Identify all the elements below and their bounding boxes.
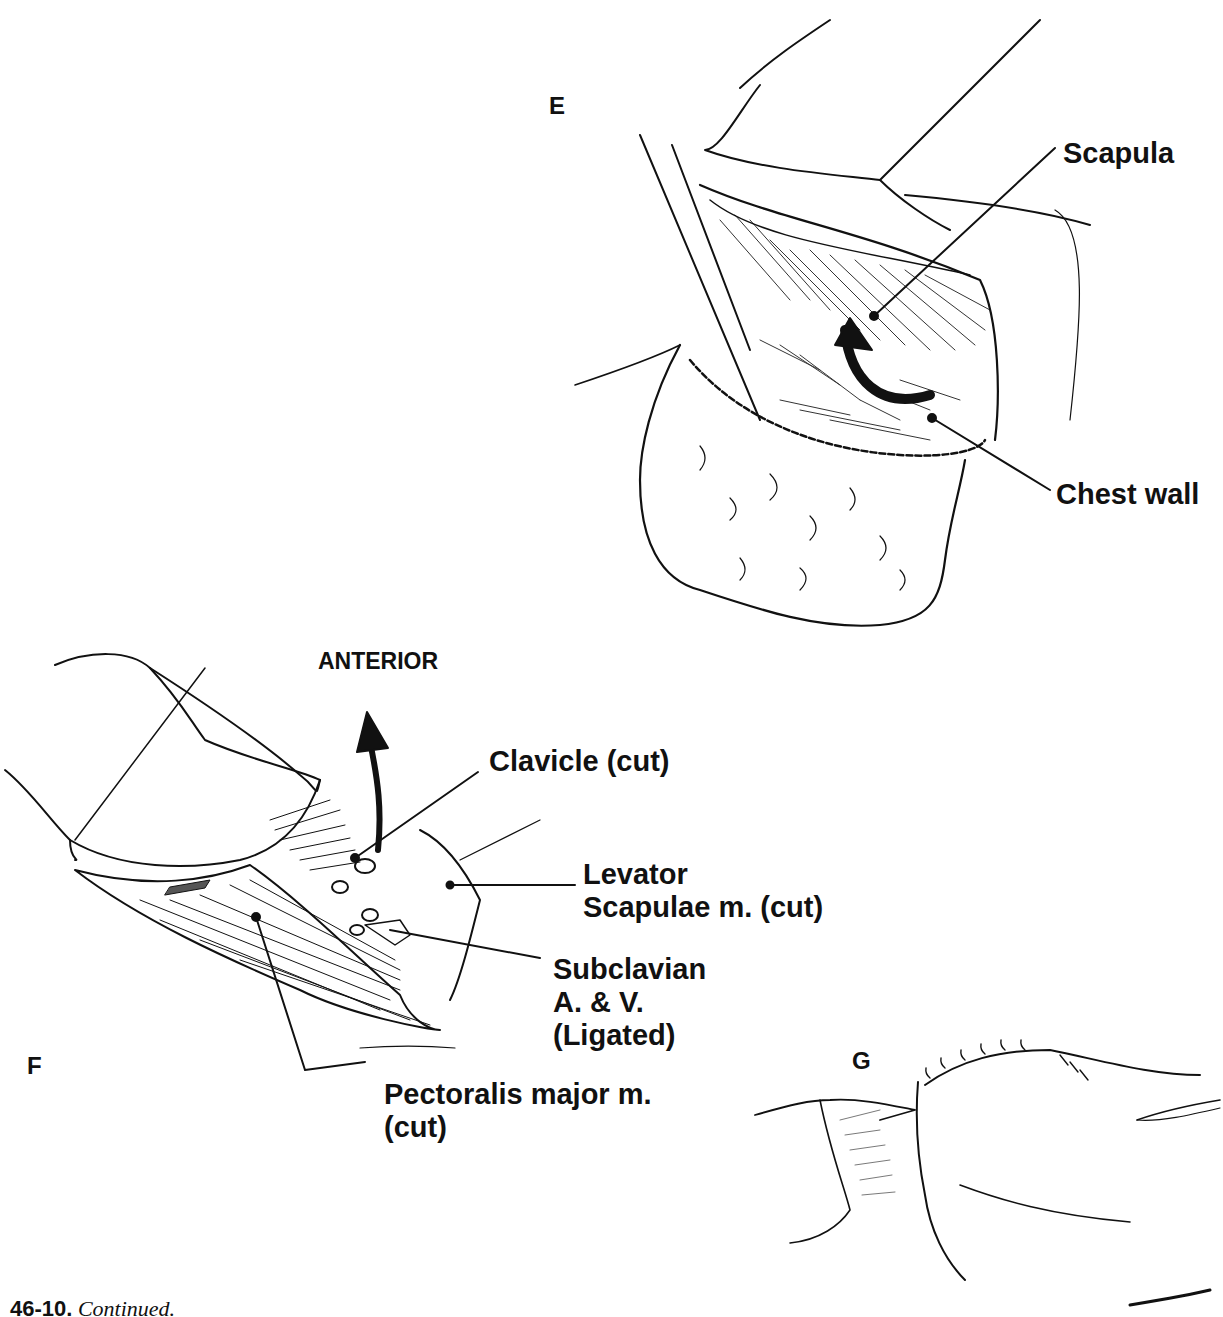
surgical-illustration [0, 0, 1223, 1317]
figure-number: 46-10. [10, 1296, 72, 1317]
figure-caption: 46-10. Continued. [10, 1296, 175, 1317]
panel-g-letter: G [852, 1047, 871, 1075]
label-scapulae-cut: Scapulae m. (cut) [583, 891, 823, 924]
label-chest-wall: Chest wall [1056, 478, 1199, 511]
label-ligated: (Ligated) [553, 1019, 675, 1052]
panel-f-letter: F [27, 1052, 42, 1080]
figure-caption-text: Continued. [78, 1296, 175, 1317]
panel-f-drawing [5, 654, 575, 1070]
label-a-and-v: A. & V. [553, 986, 644, 1019]
panel-e-letter: E [549, 92, 565, 120]
panel-e-drawing [575, 20, 1090, 626]
label-anterior: ANTERIOR [318, 645, 438, 678]
label-clavicle-cut: Clavicle (cut) [489, 745, 670, 778]
label-scapula: Scapula [1063, 137, 1174, 170]
label-subclavian: Subclavian [553, 953, 706, 986]
label-pectoralis-cut: (cut) [384, 1111, 447, 1144]
label-pectoralis-major: Pectoralis major m. [384, 1078, 652, 1111]
panel-g-drawing [755, 1040, 1220, 1305]
label-levator: Levator [583, 858, 688, 891]
